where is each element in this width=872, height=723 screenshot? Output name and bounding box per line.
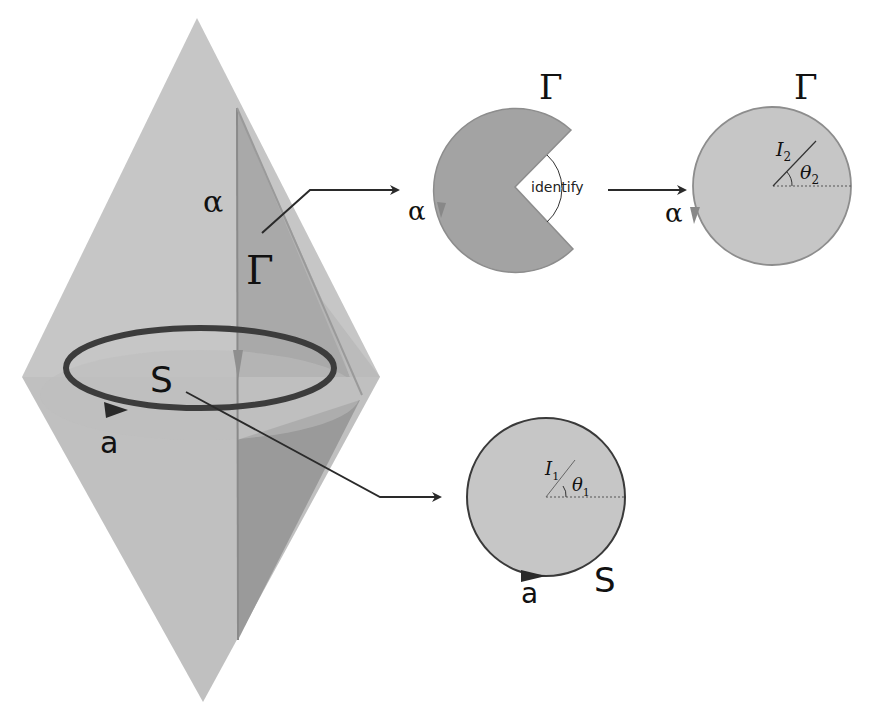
disc-top-I-subscript: 2	[784, 150, 792, 164]
disc-bottom	[467, 418, 625, 582]
disc-top-alpha-label: α	[665, 200, 683, 226]
cone-loop-S-label: S	[150, 362, 173, 398]
cone-gamma-label: Γ	[246, 250, 274, 290]
disc-bottom-theta-subscript: 1	[583, 486, 590, 499]
identify-label: identify	[531, 180, 584, 194]
disc-bottom-S-label: S	[594, 563, 616, 597]
disc-top-I-label: I2	[776, 140, 791, 163]
disc-bottom-theta-label: θ1	[572, 476, 590, 498]
disc-bottom-theta-symbol: θ	[572, 474, 583, 495]
disc-top-theta-subscript: 2	[811, 173, 819, 187]
sector-alpha-label: α	[408, 198, 426, 224]
cone-orientation-a-label: a	[100, 428, 118, 458]
cone-alpha-label: α	[203, 187, 223, 217]
disc-top-shape	[693, 107, 851, 265]
disc-top	[690, 107, 851, 265]
double-cone	[22, 18, 380, 702]
disc-top-I-symbol: I	[776, 138, 784, 160]
disc-top-theta-label: θ2	[800, 163, 819, 186]
diagram-canvas	[0, 0, 872, 723]
disc-top-theta-symbol: θ	[800, 161, 811, 183]
disc-bottom-I-label: I1	[545, 460, 559, 482]
sector-gamma-label: Γ	[539, 70, 563, 104]
disc-top-gamma-label: Γ	[794, 70, 818, 104]
cone-base	[40, 350, 360, 440]
disc-bottom-a-label: a	[521, 580, 538, 608]
disc-bottom-I-subscript: 1	[552, 470, 559, 483]
